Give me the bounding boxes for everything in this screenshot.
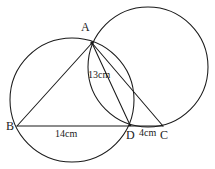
segments-group [17, 43, 163, 126]
segment-ac [92, 43, 163, 126]
measure-label-ad: 13cm [88, 70, 110, 80]
vertex-dot-d [129, 124, 132, 127]
vertex-label-b: B [6, 120, 14, 132]
vertex-label-c: C [160, 129, 168, 141]
geometry-figure: A B D C 13cm 14cm 4cm [0, 0, 215, 169]
segment-ad [92, 43, 130, 125]
vertex-label-d: D [126, 129, 135, 141]
circles-group [10, 7, 208, 162]
geometry-canvas [0, 0, 215, 169]
vertex-label-a: A [81, 21, 90, 33]
circle-abd [10, 38, 134, 162]
vertex-dot-a [90, 41, 93, 44]
measure-label-bd: 14cm [55, 129, 77, 139]
measure-label-dc: 4cm [139, 128, 156, 138]
